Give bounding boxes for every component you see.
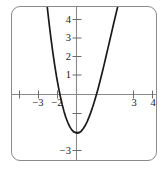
graph-figure: −3 −2 3 4 4 3 2 1 −3 (0, 0, 164, 169)
cubic-curve (39, 0, 136, 133)
y-tick-label-2: 2 (66, 51, 71, 62)
plot-canvas (0, 0, 164, 169)
x-tick-label-4: 4 (150, 98, 155, 109)
x-tick-label-3: 3 (131, 98, 136, 109)
y-tick-label-1: 1 (66, 70, 71, 81)
y-tick-label--3: −3 (60, 145, 71, 156)
y-tick-label-4: 4 (66, 14, 71, 25)
x-tick-label--3: −3 (32, 98, 43, 109)
x-tick-label--2: −2 (51, 98, 62, 109)
y-tick-label-3: 3 (66, 33, 71, 44)
